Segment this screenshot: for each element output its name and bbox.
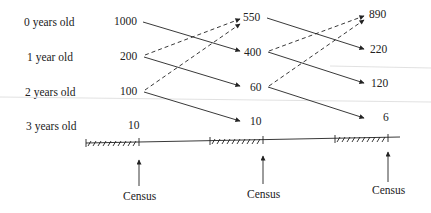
reproduction-arrows-gen1 xyxy=(145,19,240,90)
survival-arrows-gen1 xyxy=(143,22,240,121)
page-shading-lines xyxy=(0,66,431,102)
census-arrows xyxy=(139,152,388,186)
reproduction-arrows-gen2 xyxy=(269,16,364,86)
transition-diagram xyxy=(0,0,431,213)
survival-arrows-gen2 xyxy=(267,18,364,118)
timeline xyxy=(86,134,400,147)
